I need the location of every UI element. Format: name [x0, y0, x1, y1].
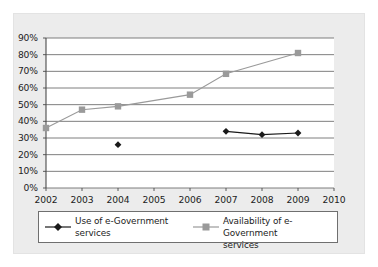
y-axis-tick-label: 20%: [12, 149, 38, 160]
data-point-marker: [79, 106, 85, 112]
legend-label-availability-line2: services: [223, 239, 341, 251]
data-point-marker: [115, 103, 121, 109]
data-point-marker: [295, 50, 301, 56]
x-axis-tick-label: 2004: [101, 194, 135, 205]
y-axis-tick-label: 10%: [12, 165, 38, 176]
legend-item-availability-of-e-government[interactable]: Availability of e-Government services: [191, 212, 337, 242]
data-point-marker: [187, 91, 193, 97]
y-axis-tick-label: 30%: [12, 132, 38, 143]
x-axis-tick-label: 2003: [65, 194, 99, 205]
x-axis-tick-label: 2010: [317, 194, 351, 205]
legend-label-use-line2: services: [75, 227, 193, 239]
y-axis-tick-label: 60%: [12, 82, 38, 93]
y-axis-tick-label: 40%: [12, 115, 38, 126]
y-axis-tick-label: 70%: [12, 65, 38, 76]
x-axis-tick-label: 2008: [245, 194, 279, 205]
legend-item-use-of-e-government[interactable]: Use of e-Government services: [43, 212, 191, 242]
legend-label-availability-line1: Availability of e-Government: [223, 215, 341, 239]
data-point-marker: [43, 125, 49, 131]
square-marker-icon: [193, 221, 219, 233]
x-axis-tick-label: 2005: [137, 194, 171, 205]
data-point-marker: [223, 71, 229, 77]
chart-figure: 0%10%20%30%40%50%60%70%80%90% 2002200320…: [0, 0, 378, 267]
x-axis-tick-label: 2007: [209, 194, 243, 205]
x-axis-tick-label: 2009: [281, 194, 315, 205]
legend-label-use-line1: Use of e-Government: [75, 215, 193, 227]
y-axis-tick-label: 80%: [12, 49, 38, 60]
legend-label-use: Use of e-Government services: [75, 215, 193, 239]
x-axis-tick-label: 2002: [29, 194, 63, 205]
plot-background: [46, 38, 334, 188]
y-axis-tick-label: 0%: [12, 182, 38, 193]
y-axis-tick-label: 90%: [12, 32, 38, 43]
chart-legend: Use of e-Government services Availabilit…: [38, 211, 338, 243]
diamond-marker-icon: [45, 221, 71, 233]
x-axis-tick-label: 2006: [173, 194, 207, 205]
legend-label-availability: Availability of e-Government services: [223, 215, 341, 251]
y-axis-tick-label: 50%: [12, 99, 38, 110]
